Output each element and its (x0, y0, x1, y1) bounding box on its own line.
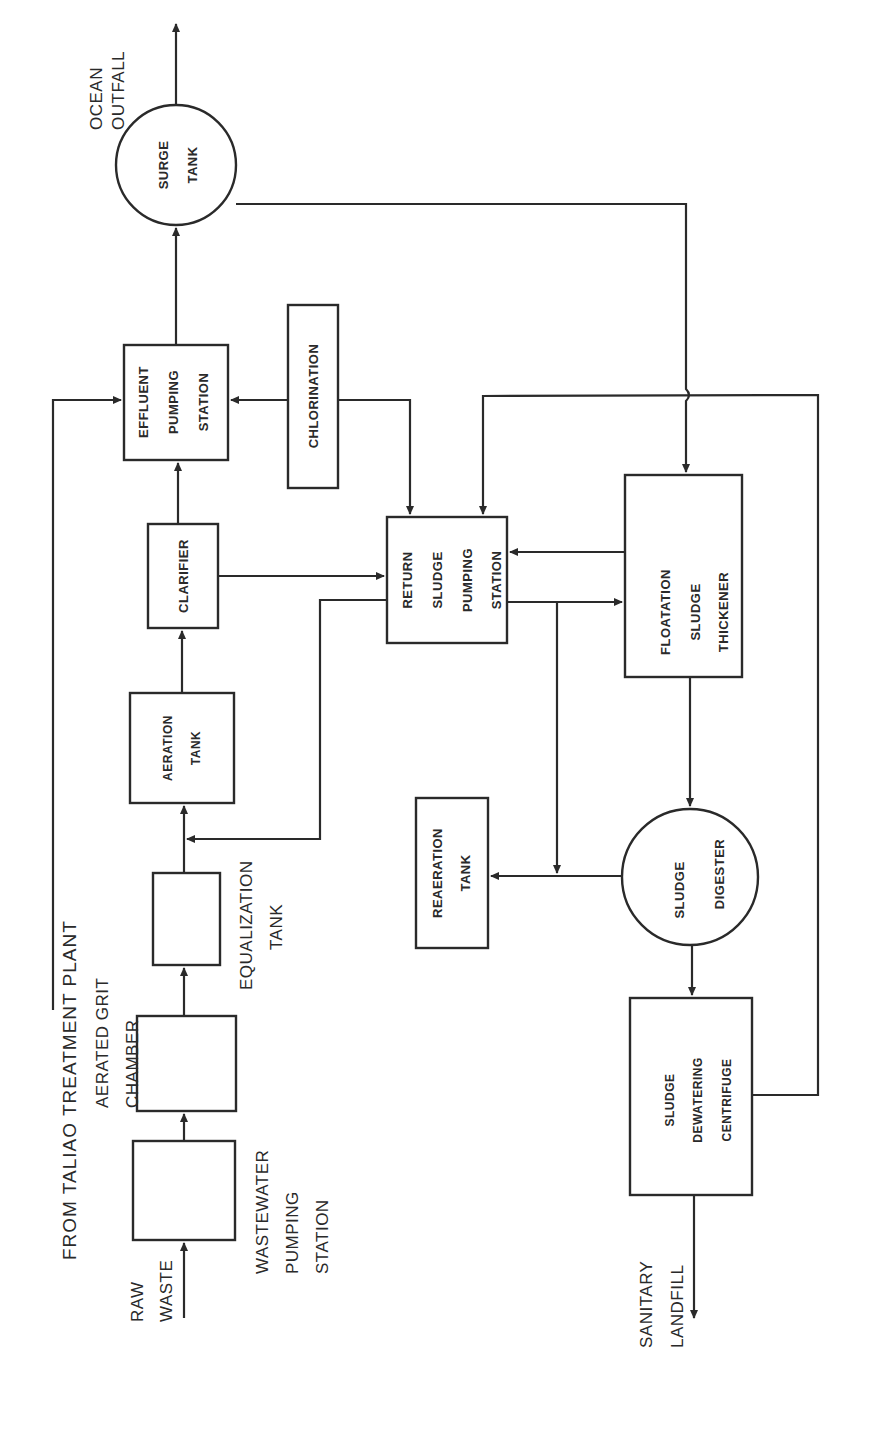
aeration-label-2: TANK (189, 731, 203, 765)
sanitary-landfill-label: SANITARY LANDFILL (637, 1261, 687, 1348)
wastewater-pumping-station-label: WASTEWATER PUMPING STATION (253, 1150, 332, 1274)
equalization-tank-node (153, 873, 220, 965)
raw-waste-label: RAW WASTE (128, 1260, 176, 1322)
edge-chlorination-to-return (338, 400, 410, 514)
centrifuge-label-3: CENTRIFUGE (720, 1059, 734, 1142)
digester-label-2: DIGESTER (712, 839, 727, 910)
equalization-tank-label: EQUALIZATION TANK (237, 861, 286, 990)
return-sludge-label-2: SLUDGE (430, 551, 445, 608)
floatation-sludge-thickener-node: FLOATATION SLUDGE THICKENER (625, 475, 742, 677)
digester-label-1: SLUDGE (672, 861, 687, 918)
effluent-label-1: EFFLUENT (136, 366, 151, 438)
return-sludge-label-1: RETURN (400, 551, 415, 608)
reaeration-label-2: TANK (458, 854, 473, 891)
sludge-digester-node: SLUDGE DIGESTER (622, 809, 758, 945)
grit-label-1: AERATED GRIT (93, 978, 112, 1108)
wastewater-pumping-station-node (133, 1141, 235, 1240)
centrifuge-label-1: SLUDGE (663, 1073, 677, 1126)
raw-label-2: WASTE (157, 1260, 176, 1322)
chlorination-label: CHLORINATION (306, 344, 321, 449)
raw-label-1: RAW (128, 1281, 147, 1322)
effluent-label-3: STATION (196, 373, 211, 432)
landfill-label-1: SANITARY (637, 1261, 656, 1348)
edge-taliao-to-effluent (53, 400, 121, 1010)
aerated-grit-chamber-label: AERATED GRIT CHAMBER (93, 978, 142, 1108)
thickener-label-2: SLUDGE (688, 583, 703, 640)
aeration-label-1: AERATION (161, 715, 175, 781)
landfill-label-2: LANDFILL (668, 1265, 687, 1348)
centrifuge-label-2: DEWATERING (691, 1057, 705, 1142)
effluent-pumping-station-node: EFFLUENT PUMPING STATION (124, 345, 228, 460)
return-sludge-label-4: STATION (489, 551, 504, 610)
return-sludge-label-3: PUMPING (460, 548, 475, 612)
surge-tank-label-1: SURGE (156, 141, 171, 190)
process-flow-diagram: SURGE TANK EFFLUENT PUMPING STATION CHLO… (0, 0, 873, 1431)
thickener-label-1: FLOATATION (658, 569, 673, 655)
equalization-label-1: EQUALIZATION (237, 861, 256, 990)
surge-tank-label-2: TANK (185, 146, 200, 183)
from-taliao-label: FROM TALIAO TREATMENT PLANT (59, 920, 80, 1260)
equalization-label-2: TANK (267, 904, 286, 950)
effluent-label-2: PUMPING (166, 370, 181, 434)
surge-tank-node: SURGE TANK (116, 105, 236, 225)
aeration-tank-node: AERATION TANK (130, 693, 234, 803)
ocean-label-1: OCEAN (87, 67, 106, 130)
ww-label-2: PUMPING (283, 1191, 302, 1274)
reaeration-tank-node: REAERATION TANK (416, 798, 488, 948)
clarifier-node: CLARIFIER (148, 524, 218, 628)
sludge-dewatering-centrifuge-node: SLUDGE DEWATERING CENTRIFUGE (630, 998, 752, 1195)
thickener-label-3: THICKENER (716, 572, 731, 652)
clarifier-label: CLARIFIER (176, 539, 191, 613)
ww-label-3: STATION (313, 1199, 332, 1274)
ww-label-1: WASTEWATER (253, 1150, 272, 1274)
ocean-outfall-label: OCEAN OUTFALL (87, 51, 128, 130)
reaeration-label-1: REAERATION (430, 828, 445, 918)
grit-label-2: CHAMBER (123, 1019, 142, 1108)
return-sludge-pumping-station-node: RETURN SLUDGE PUMPING STATION (387, 517, 507, 643)
grit-chamber-node (137, 1016, 236, 1111)
ocean-label-2: OUTFALL (109, 51, 128, 130)
chlorination-node: CHLORINATION (288, 305, 338, 488)
